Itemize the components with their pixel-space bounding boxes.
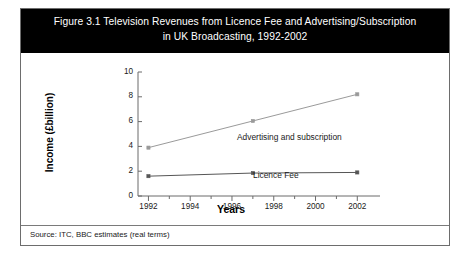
y-tick-label: 6 [111, 116, 133, 125]
x-tick-label: 1992 [133, 202, 163, 211]
y-tick-label: 8 [111, 91, 133, 100]
figure-container: Figure 3.1 Television Revenues from Lice… [20, 8, 450, 246]
y-tick-label: 0 [111, 191, 133, 200]
x-tick-label: 1998 [259, 202, 289, 211]
figure-title-line-1: Figure 3.1 Television Revenues from Lice… [33, 14, 437, 29]
y-tick-label: 10 [111, 67, 133, 76]
x-tick-label: 1996 [217, 202, 247, 211]
figure-title-line-2: in UK Broadcasting, 1992-2002 [33, 29, 437, 44]
x-tick-label: 2002 [342, 202, 372, 211]
source-divider [21, 225, 450, 226]
y-tick-label: 4 [111, 141, 133, 150]
x-tick-label: 2000 [301, 202, 331, 211]
series-label-licence-fee: Licence Fee [253, 170, 299, 180]
figure-title-banner: Figure 3.1 Television Revenues from Lice… [21, 9, 449, 53]
line-chart-svg [21, 53, 450, 225]
plot-area: Income (£billion) Years 0246810199219941… [21, 53, 450, 225]
y-tick-label: 2 [111, 166, 133, 175]
x-tick-label: 1994 [175, 202, 205, 211]
chart-region: Income (£billion) Years 0246810199219941… [21, 53, 449, 225]
source-note: Source: ITC, BBC estimates (real terms) [30, 230, 170, 239]
series-label-advertising: Advertising and subscription [237, 132, 342, 142]
